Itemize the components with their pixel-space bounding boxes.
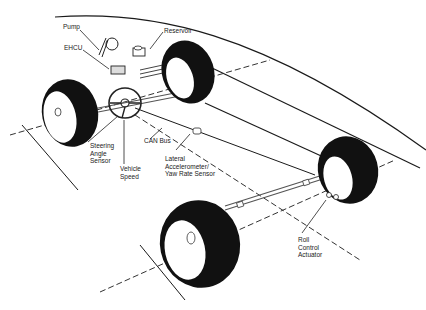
label-lateral-sensor: Lateral Accelerometer/ Yaw Rate Sensor	[165, 155, 215, 178]
lateral-sensor-icon	[193, 128, 201, 134]
label-reservoir: Reservoir	[164, 27, 192, 35]
rear-bushing	[303, 179, 310, 186]
front-left-wheel	[36, 74, 105, 152]
reservoir-icon	[133, 46, 145, 56]
label-vehicle-speed: Vehicle Speed	[120, 165, 141, 180]
pump-icon	[99, 38, 118, 57]
label-pump: Pump	[63, 23, 80, 31]
frame-line	[205, 103, 330, 160]
label-ehcu: EHCU	[64, 44, 82, 52]
rear-right-wheel	[310, 129, 386, 210]
label-roll-control-actuator: Roll Control Actuator	[298, 236, 322, 259]
label-steering-angle-sensor: Steering Angle Sensor	[90, 142, 114, 165]
rear-left-wheel	[152, 193, 249, 296]
ehcu-icon	[111, 66, 125, 74]
label-can-bus: CAN Bus	[144, 137, 171, 145]
road-edge-top	[55, 16, 426, 150]
